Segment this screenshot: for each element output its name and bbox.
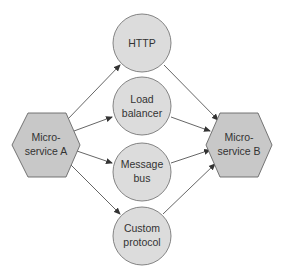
edge-a-to-message-bus <box>74 150 112 163</box>
node-custom-protocol: Custom protocol <box>113 207 171 265</box>
edge-a-to-http <box>67 65 120 120</box>
edge-load-balancer-to-b <box>171 117 210 131</box>
label-line-2: balancer <box>122 107 163 119</box>
node-message-bus: Message bus <box>113 143 171 201</box>
label-line-1: Load <box>130 93 154 105</box>
edge-http-to-b <box>164 65 218 120</box>
node-microservice-b: Micro- service B <box>206 113 272 177</box>
edge-a-to-custom-protocol <box>68 162 120 214</box>
label-line-1: Micro- <box>224 131 254 143</box>
label-line-2: protocol <box>123 236 160 248</box>
label-line-2: service B <box>217 145 260 157</box>
label-line-1: Custom <box>124 222 160 234</box>
label-line-2: service A <box>25 145 68 157</box>
node-load-balancer: Load balancer <box>113 77 171 135</box>
edge-message-bus-to-b <box>171 150 210 163</box>
label-line-2: bus <box>134 172 151 184</box>
edge-a-to-load-balancer <box>74 117 112 131</box>
circle-shape <box>113 77 171 135</box>
node-microservice-a: Micro- service A <box>12 113 80 177</box>
protocol-diagram: Micro- service A Micro- service B HTTP L… <box>0 0 284 271</box>
label-line-1: HTTP <box>128 37 155 49</box>
label-line-1: Micro- <box>31 131 61 143</box>
label-line-1: Message <box>121 158 164 170</box>
node-http: HTTP <box>113 14 171 72</box>
